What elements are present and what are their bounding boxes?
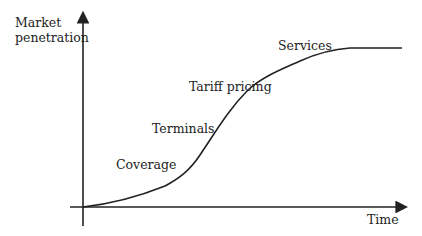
stage-label-tariff-pricing: Tariff pricing: [189, 79, 272, 94]
stage-label-services: Services: [278, 38, 332, 53]
y-axis-label: Market penetration: [15, 15, 89, 45]
y-axis-label-line2: penetration: [15, 30, 89, 45]
stage-label-coverage: Coverage: [116, 157, 176, 172]
adoption-curve: [83, 48, 402, 207]
y-axis-label-line1: Market: [15, 15, 89, 30]
stage-label-terminals: Terminals: [152, 121, 215, 136]
x-axis-label: Time: [367, 212, 399, 227]
